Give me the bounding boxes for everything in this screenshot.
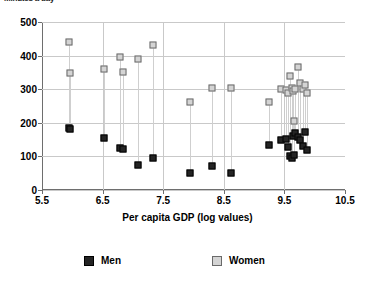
y-axis-tick-label: 500	[20, 17, 37, 28]
pair-connector-line	[212, 88, 213, 167]
y-axis-line	[42, 22, 43, 190]
data-point-women	[134, 55, 141, 62]
plot-area	[42, 22, 345, 190]
data-point-women	[266, 98, 273, 105]
legend-swatch-men-icon	[84, 256, 94, 266]
pair-connector-line	[190, 102, 191, 173]
y-axis-tick	[38, 123, 42, 124]
pair-connector-line	[295, 89, 296, 133]
x-axis-tick-label: 10.5	[335, 195, 354, 206]
data-point-men	[134, 161, 141, 168]
gridline-horizontal	[42, 190, 345, 191]
x-axis-tick-label: 9.5	[277, 195, 291, 206]
gridline-horizontal	[42, 56, 345, 57]
pair-connector-line	[104, 69, 105, 138]
data-point-men	[100, 134, 107, 141]
data-point-women	[208, 84, 215, 91]
pair-connector-line	[269, 102, 270, 146]
y-axis-tick-label: 100	[20, 151, 37, 162]
data-point-men	[187, 169, 194, 176]
x-axis-tick	[224, 190, 225, 194]
gridline-horizontal	[42, 156, 345, 157]
x-axis-tick	[163, 190, 164, 194]
y-axis-tick-label: 300	[20, 84, 37, 95]
data-point-men	[228, 169, 235, 176]
data-point-men	[304, 146, 311, 153]
gridline-vertical	[224, 22, 225, 190]
data-point-women	[228, 84, 235, 91]
pair-connector-line	[231, 88, 232, 173]
chart-legend: Men Women	[0, 255, 375, 271]
pair-connector-line	[70, 73, 71, 129]
legend-label-women: Women	[229, 255, 265, 266]
y-axis-tick	[38, 22, 42, 23]
y-axis-title: Minutes a day	[4, 0, 54, 3]
data-point-men	[291, 152, 298, 159]
data-point-women	[302, 82, 309, 89]
data-point-women	[187, 98, 194, 105]
data-point-women	[67, 70, 74, 77]
legend-item-women: Women	[212, 255, 265, 266]
x-axis-tick-label: 6.5	[96, 195, 110, 206]
y-axis-tick	[38, 89, 42, 90]
data-point-women	[149, 41, 156, 48]
data-point-women	[304, 90, 311, 97]
data-point-women	[100, 66, 107, 73]
pair-connector-line	[286, 90, 287, 139]
data-point-women	[292, 86, 299, 93]
y-axis-tick	[38, 156, 42, 157]
legend-item-men: Men	[84, 255, 121, 266]
pair-connector-line	[153, 45, 154, 158]
x-axis-tick	[345, 190, 346, 194]
y-axis-tick-labels: 0100200300400500	[0, 22, 37, 190]
y-axis-tick-label: 400	[20, 50, 37, 61]
pair-connector-line	[298, 67, 299, 137]
scatter-chart: Minutes a day 0100200300400500 5.56.57.5…	[0, 0, 375, 282]
x-axis-tick-label: 7.5	[156, 195, 170, 206]
x-axis-tick	[284, 190, 285, 194]
gridline-vertical	[163, 22, 164, 190]
pair-connector-line	[123, 72, 124, 149]
y-axis-tick	[38, 56, 42, 57]
data-point-women	[294, 64, 301, 71]
data-point-men	[208, 163, 215, 170]
data-point-women	[66, 39, 73, 46]
pair-connector-line	[281, 89, 282, 140]
gridline-horizontal	[42, 22, 345, 23]
data-point-men	[149, 154, 156, 161]
x-axis-tick-label: 8.5	[217, 195, 231, 206]
data-point-women	[116, 54, 123, 61]
data-point-women	[119, 68, 126, 75]
x-axis-title: Per capita GDP (log values)	[0, 212, 375, 223]
data-point-men	[282, 135, 289, 142]
data-point-men	[302, 129, 309, 136]
data-point-men	[67, 125, 74, 132]
pair-connector-line	[307, 93, 308, 149]
legend-swatch-women-icon	[212, 256, 222, 266]
y-axis-tick-label: 200	[20, 117, 37, 128]
data-point-women	[287, 72, 294, 79]
data-point-women	[291, 118, 298, 125]
data-point-men	[119, 146, 126, 153]
x-axis-tick-label: 5.5	[35, 195, 49, 206]
x-axis-tick-labels: 5.56.57.58.59.510.5	[42, 195, 345, 209]
y-axis-tick-label: 0	[31, 185, 37, 196]
x-axis-tick	[103, 190, 104, 194]
pair-connector-line	[138, 59, 139, 165]
data-point-men	[285, 143, 292, 150]
x-axis-tick	[42, 190, 43, 194]
data-point-men	[266, 142, 273, 149]
legend-label-men: Men	[101, 255, 121, 266]
